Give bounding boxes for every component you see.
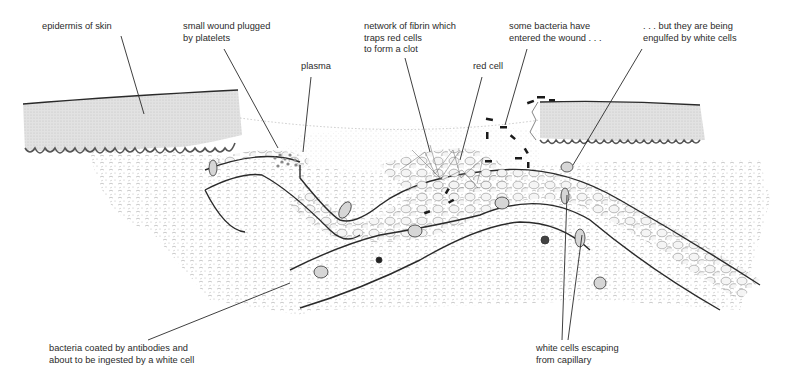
epidermis-right <box>530 101 705 143</box>
label-red-cell: red cell <box>473 61 503 73</box>
wound-diagram <box>0 0 786 385</box>
label-bacteria-entered: some bacteria have entered the wound . .… <box>509 21 602 44</box>
label-engulfed: . . . but they are being engulfed by whi… <box>643 21 737 44</box>
label-antibodies: bacteria coated by antibodies and about … <box>49 343 194 366</box>
label-plasma: plasma <box>301 61 331 73</box>
label-epidermis: epidermis of skin <box>42 21 112 33</box>
label-white-cells-escaping: white cells escaping from capillary <box>536 343 619 366</box>
epidermis-left <box>23 90 242 153</box>
label-fibrin: network of fibrin which traps red cells … <box>364 21 456 56</box>
label-wound-plug: small wound plugged by platelets <box>183 21 270 44</box>
